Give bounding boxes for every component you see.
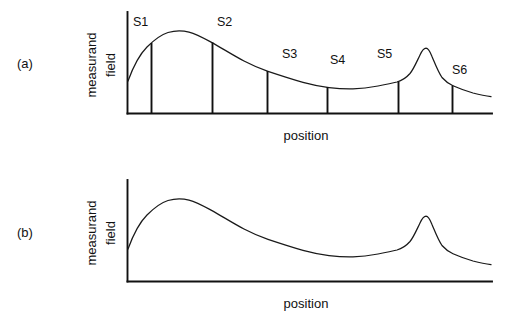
- sensor-label-s5: S5: [377, 47, 392, 61]
- panel-a-ylabel-measurand: measurand: [84, 32, 99, 97]
- panel-b-xlabel: position: [284, 296, 329, 311]
- panel-b-curve: [128, 199, 491, 265]
- panel-a-curve: [128, 31, 491, 97]
- sensor-label-s6: S6: [452, 63, 467, 77]
- panel-b-label: (b): [17, 225, 33, 240]
- panel-a-ylabel-field: field: [103, 53, 118, 77]
- sensor-label-s3: S3: [282, 47, 297, 61]
- panel-a: (a) measurand field S1 S2 S3 S4 S5 S6 po…: [17, 12, 492, 143]
- panel-b-ylabel-field: field: [103, 221, 118, 245]
- panel-a-sensor-labels: S1 S2 S3 S4 S5 S6: [133, 15, 467, 77]
- sensor-label-s1: S1: [133, 15, 148, 29]
- panel-a-sensor-lines: [152, 43, 453, 114]
- panel-a-label: (a): [17, 56, 33, 71]
- panel-a-xlabel: position: [284, 128, 329, 143]
- sensor-label-s4: S4: [330, 53, 345, 67]
- sensor-label-s2: S2: [217, 15, 232, 29]
- figure-canvas: (a) measurand field S1 S2 S3 S4 S5 S6 po…: [0, 0, 509, 324]
- panel-b: (b) measurand field position: [17, 180, 492, 311]
- panel-b-ylabel-measurand: measurand: [84, 200, 99, 265]
